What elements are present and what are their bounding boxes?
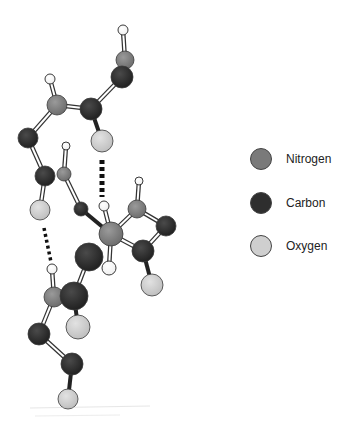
carbon-swatch-icon: [250, 192, 272, 214]
oxygen-atom: [58, 389, 78, 409]
oxygen-atom: [141, 274, 163, 296]
carbon-atom: [35, 166, 55, 186]
hydrogen-atom: [62, 142, 70, 150]
legend-label: Oxygen: [286, 239, 327, 253]
oxygen-atom: [30, 200, 50, 220]
legend-item-nitrogen: Nitrogen: [250, 148, 347, 174]
carbon-atom: [75, 243, 103, 271]
hydrogen-atom: [102, 261, 116, 275]
carbon-atom: [132, 240, 154, 262]
carbon-atom: [60, 282, 88, 310]
hydrogen-atom: [45, 74, 55, 84]
oxygen-atom: [66, 315, 90, 339]
hydrogen-atom: [47, 264, 57, 274]
hydrogen-atom: [118, 25, 128, 35]
carbon-atom: [28, 323, 50, 345]
legend-label: Carbon: [286, 196, 325, 210]
legend-item-carbon: Carbon: [250, 192, 347, 218]
nitrogen-atom: [57, 167, 71, 181]
nitrogen-swatch-icon: [250, 148, 272, 170]
hydrogen-atom: [99, 201, 109, 211]
legend-label: Nitrogen: [286, 152, 331, 166]
nitrogen-atom: [99, 222, 123, 246]
oxygen-atom: [91, 130, 113, 152]
nitrogen-atom: [47, 95, 67, 115]
legend-item-oxygen: Oxygen: [250, 235, 347, 261]
carbon-atom: [156, 216, 176, 236]
oxygen-swatch-icon: [250, 235, 272, 257]
hydrogen-atom: [135, 177, 143, 185]
carbon-atom: [111, 66, 133, 88]
carbon-atom: [18, 128, 38, 148]
faint-scan-artifact: [30, 406, 150, 416]
carbon-atom: [74, 202, 88, 216]
hydrogen-bond: [44, 228, 51, 262]
nitrogen-atom: [128, 200, 146, 218]
carbon-atom: [80, 98, 102, 120]
carbon-atom: [61, 353, 83, 375]
